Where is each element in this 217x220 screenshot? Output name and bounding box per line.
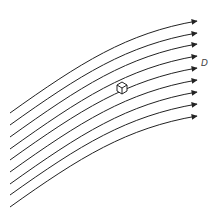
streamlines-group xyxy=(10,21,197,207)
region-label-d: D xyxy=(201,58,208,68)
cube-icon xyxy=(117,82,127,94)
streamline-arrow xyxy=(10,68,197,160)
streamline-arrow xyxy=(10,44,197,137)
streamline-diagram xyxy=(0,0,217,220)
